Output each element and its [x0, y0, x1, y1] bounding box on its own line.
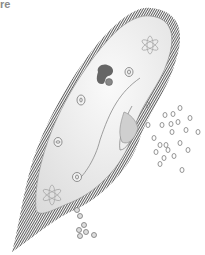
- paramecium-illustration: [0, 0, 205, 255]
- expelled-particles: [75, 208, 97, 239]
- bacteria-particles: [146, 103, 200, 173]
- micronucleus: [106, 79, 113, 86]
